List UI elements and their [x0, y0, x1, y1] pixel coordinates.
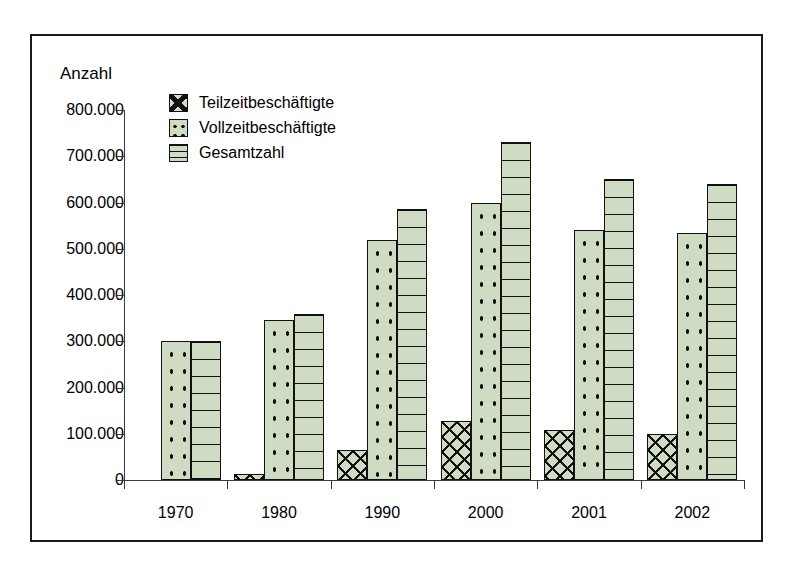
y-axis-tick-mark — [117, 295, 124, 296]
y-axis-tick-labels: 0100.000200.000300.000400.000500.000600.… — [46, 36, 124, 544]
y-axis-tick-mark — [117, 249, 124, 250]
y-axis-tick-label: 300.000 — [46, 332, 124, 350]
y-axis-tick-label: 600.000 — [46, 194, 124, 212]
plot-area: Anzahl 0100.000200.000300.000400.000500.… — [32, 36, 765, 544]
legend-swatch-icon — [169, 94, 188, 112]
chart-legend: TeilzeitbeschäftigteVollzeitbeschäftigte… — [169, 90, 336, 165]
bar — [471, 203, 501, 481]
y-axis-tick-label: 400.000 — [46, 286, 124, 304]
legend-item: Vollzeitbeschäftigte — [169, 115, 336, 140]
y-axis-tick-mark — [117, 388, 124, 389]
legend-item-label: Vollzeitbeschäftigte — [199, 119, 336, 137]
legend-swatch-icon — [169, 119, 188, 137]
legend-swatch-icon — [169, 144, 188, 162]
x-axis-category-label: 1980 — [261, 504, 297, 522]
legend-item: Gesamtzahl — [169, 140, 336, 165]
x-axis-category-label: 2001 — [571, 504, 607, 522]
bar — [707, 184, 737, 480]
bar — [647, 434, 677, 480]
bar — [191, 341, 221, 480]
y-axis-tick-label: 800.000 — [46, 101, 124, 119]
bar — [501, 142, 531, 480]
y-axis-tick-label: 0 — [46, 471, 124, 489]
bar — [574, 230, 604, 480]
x-axis-category-label: 2000 — [468, 504, 504, 522]
y-axis-tick-mark — [117, 203, 124, 204]
bar — [161, 341, 191, 480]
bar — [264, 320, 294, 480]
legend-item: Teilzeitbeschäftigte — [169, 90, 336, 115]
y-axis-tick-mark — [117, 480, 124, 481]
x-axis-category-label: 1990 — [365, 504, 401, 522]
x-axis-tick-mark — [331, 480, 332, 489]
x-axis-tick-mark — [227, 480, 228, 489]
legend-item-label: Teilzeitbeschäftigte — [199, 94, 334, 112]
x-axis-tick-mark — [537, 480, 538, 489]
y-axis-tick-mark — [117, 341, 124, 342]
bar — [441, 421, 471, 480]
bar — [604, 179, 634, 480]
bar — [367, 240, 397, 481]
bar — [677, 233, 707, 480]
bar — [337, 450, 367, 480]
y-axis-line — [124, 110, 125, 480]
legend-item-label: Gesamtzahl — [199, 144, 284, 162]
y-axis-tick-mark — [117, 156, 124, 157]
bar — [234, 474, 264, 480]
x-axis-category-label: 2002 — [675, 504, 711, 522]
bar — [544, 430, 574, 480]
y-axis-tick-label: 100.000 — [46, 425, 124, 443]
x-axis-category-label: 1970 — [158, 504, 194, 522]
x-axis-tick-mark — [434, 480, 435, 489]
y-axis-tick-label: 700.000 — [46, 147, 124, 165]
x-axis-tick-mark — [641, 480, 642, 489]
y-axis-tick-mark — [117, 110, 124, 111]
bar — [397, 209, 427, 480]
x-axis-tick-mark — [124, 480, 125, 489]
x-axis-tick-mark — [744, 480, 745, 489]
y-axis-tick-mark — [117, 434, 124, 435]
y-axis-tick-label: 200.000 — [46, 379, 124, 397]
chart-frame: Anzahl 0100.000200.000300.000400.000500.… — [30, 34, 763, 542]
bar — [294, 314, 324, 480]
y-axis-tick-label: 500.000 — [46, 240, 124, 258]
